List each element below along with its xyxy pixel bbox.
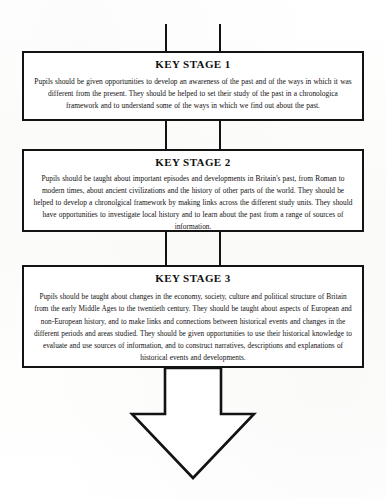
stage-body: Pupils should be taught about changes in…	[24, 284, 362, 365]
stage-box-key-stage-2: KEY STAGE 2 Pupils should be taught abou…	[22, 149, 364, 232]
document-page: KEY STAGE 1 Pupils should be given oppor…	[0, 0, 386, 499]
down-arrow-icon	[98, 366, 288, 484]
stage-title: KEY STAGE 3	[24, 272, 362, 284]
connector-rail-right	[219, 119, 221, 151]
connector-rail-right	[219, 230, 221, 267]
connector-ks2-to-ks3	[165, 230, 221, 267]
stage-box-key-stage-1: KEY STAGE 1 Pupils should be given oppor…	[22, 51, 364, 121]
stage-body: Pupils should be taught about important …	[24, 168, 362, 233]
connector-ks1-to-ks2	[165, 119, 221, 151]
stage-box-key-stage-3: KEY STAGE 3 Pupils should be taught abou…	[22, 265, 364, 368]
connector-rail-left	[165, 230, 167, 267]
connector-rail-left	[165, 119, 167, 151]
stage-body: Pupils should be given opportunities to …	[24, 70, 362, 112]
connector-rail-left	[165, 24, 167, 53]
stage-title: KEY STAGE 1	[24, 58, 362, 70]
stage-title: KEY STAGE 2	[24, 156, 362, 168]
connector-rail-right	[219, 24, 221, 53]
connector-top-stub	[165, 24, 221, 53]
